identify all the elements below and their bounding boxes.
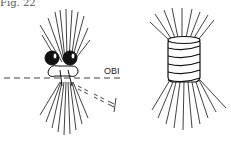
wrapped-coil (168, 37, 200, 83)
figure-drawing (0, 0, 231, 141)
